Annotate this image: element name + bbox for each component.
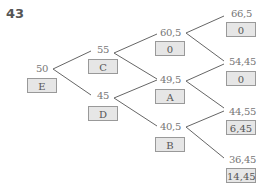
node-A-box: A — [155, 89, 185, 104]
edge-C-A — [114, 53, 157, 79]
node-44-55-box: 6,45 — [226, 120, 256, 135]
edge-C-605 — [114, 34, 157, 53]
node-54-45-value: 54,45 — [229, 56, 256, 67]
edge-A-5445 — [186, 64, 224, 81]
node-60-5-box: 0 — [155, 41, 185, 56]
edge-B-3645 — [186, 127, 224, 158]
node-36-45-box: 14,45 — [226, 168, 256, 183]
edge-605-5445 — [186, 33, 224, 61]
node-E-box: E — [27, 78, 57, 93]
node-B-value: 40,5 — [160, 121, 181, 132]
node-C-box: C — [88, 59, 118, 74]
node-66-5-value: 66,5 — [231, 8, 252, 19]
tree-edges — [0, 0, 264, 192]
edge-A-4455 — [186, 81, 224, 108]
node-D-box: D — [88, 106, 118, 121]
node-C-value: 55 — [97, 44, 109, 55]
node-B-box: B — [155, 137, 185, 152]
node-E-value: 50 — [36, 63, 48, 74]
edge-E-C — [53, 51, 91, 69]
node-36-45-value: 36,45 — [229, 154, 256, 165]
edge-D-A — [114, 80, 157, 98]
edge-B-4455 — [186, 111, 224, 127]
node-A-value: 49,5 — [160, 74, 181, 85]
node-66-5-box: 0 — [226, 22, 256, 37]
edge-E-D — [53, 69, 91, 95]
node-54-45-box: 0 — [226, 71, 256, 86]
node-60-5-value: 60,5 — [160, 27, 181, 38]
edge-605-665 — [186, 16, 224, 33]
node-44-55-value: 44,55 — [229, 106, 256, 117]
edge-D-B — [114, 98, 157, 126]
node-D-value: 45 — [97, 90, 109, 101]
